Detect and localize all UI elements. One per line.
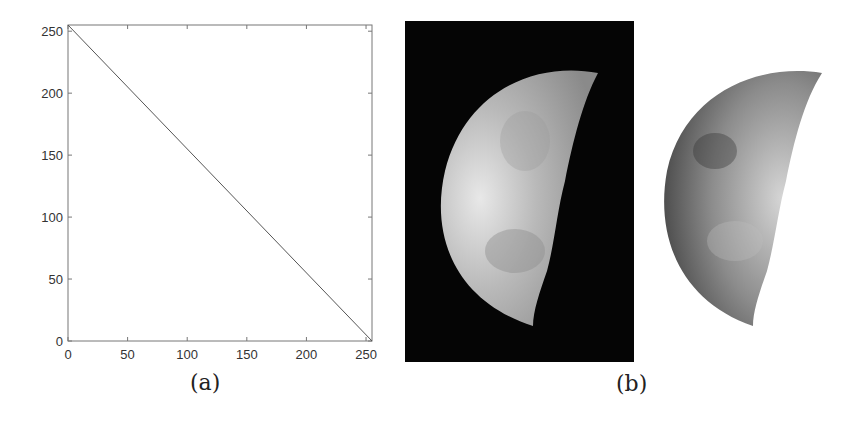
y-tick-label: 100 <box>41 210 63 225</box>
moon-crescent <box>441 70 598 326</box>
moon-photo <box>405 21 634 362</box>
y-tick-label: 150 <box>41 148 63 163</box>
original-moon-image <box>405 21 634 362</box>
caption-a: (a) <box>190 370 220 395</box>
y-tick-label: 200 <box>41 86 63 101</box>
y-tick-label: 0 <box>56 334 63 349</box>
x-tick-label: 0 <box>64 347 71 362</box>
caption-b: (b) <box>616 371 647 396</box>
y-tick-label: 50 <box>49 272 63 287</box>
y-tick-label: 250 <box>41 24 63 39</box>
x-tick-label: 250 <box>355 347 377 362</box>
x-tick-label: 100 <box>176 347 198 362</box>
moon-photo-negative <box>640 21 858 362</box>
x-tick-label: 200 <box>296 347 318 362</box>
x-tick-label: 150 <box>236 347 258 362</box>
moon-crescent-negative <box>664 71 822 326</box>
negative-moon-image <box>640 21 858 362</box>
panel-a-transform-plot: 050100150200250050100150200250 (a) <box>0 0 400 423</box>
x-tick-label: 50 <box>120 347 134 362</box>
line-chart: 050100150200250050100150200250 <box>0 0 400 370</box>
